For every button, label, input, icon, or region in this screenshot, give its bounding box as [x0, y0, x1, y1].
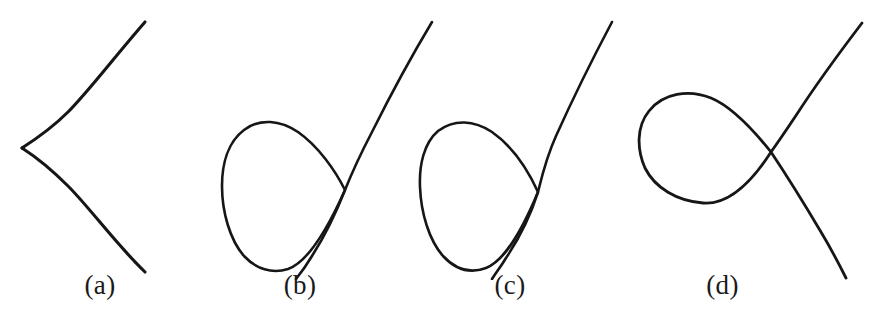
figure-panel-c: (c) — [410, 0, 610, 319]
cusp-upper-branch — [22, 22, 145, 148]
figure-sheet: (a) (b) (c) (d) — [0, 0, 872, 319]
panel-label-c: (c) — [410, 272, 610, 299]
figure-panel-d: (d) — [615, 0, 872, 319]
panel-label-d: (d) — [615, 272, 830, 299]
tacnode-rising-branch — [492, 22, 612, 279]
nodal-cubic-branch — [771, 23, 862, 278]
panel-label-a: (a) — [0, 272, 200, 299]
figure-panel-b: (b) — [200, 0, 400, 319]
panel-label-b: (b) — [200, 272, 400, 299]
node-loop-branch — [222, 122, 345, 271]
figure-panel-a: (a) — [0, 0, 200, 319]
cusp-lower-branch — [22, 148, 145, 272]
tacnode-loop-branch — [420, 122, 538, 270]
cusp-curve-drawing — [0, 0, 200, 280]
nodal-cubic-loop — [639, 93, 771, 203]
nodal-cubic-drawing — [615, 0, 872, 290]
